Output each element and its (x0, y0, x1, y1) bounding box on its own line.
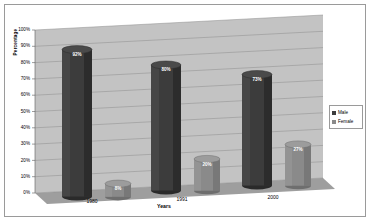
ytick-0: 0% (5, 190, 30, 195)
y-axis-title: Percentage (13, 7, 19, 77)
value-label-1991-male: 80% (151, 67, 181, 72)
ytick-30: 30% (5, 141, 30, 146)
legend-swatch-male (332, 111, 336, 115)
bar-2000-male[interactable] (242, 71, 272, 190)
ytick-40: 40% (5, 125, 30, 130)
value-label-1980-female: 8% (105, 186, 131, 191)
x-axis-title: Years (5, 203, 323, 209)
value-label-1991-female: 20% (194, 162, 220, 167)
ytick-60: 60% (5, 92, 30, 97)
bar-chart-3d (5, 5, 367, 218)
legend-label-male: Male (338, 110, 348, 115)
chart-legend: Male Female (329, 105, 363, 129)
ytick-50: 50% (5, 109, 30, 114)
bar-1991-male[interactable] (151, 61, 181, 195)
legend-item-male[interactable]: Male (332, 108, 360, 117)
value-label-2000-female: 27% (285, 147, 311, 152)
y-axis (32, 30, 35, 193)
xtick-1991: 1991 (157, 196, 207, 202)
value-label-2000-male: 73% (242, 77, 272, 82)
ytick-20: 20% (5, 158, 30, 163)
legend-label-female: Female (338, 119, 353, 124)
xtick-2000: 2000 (248, 194, 298, 200)
chart-frame: 100% 90% 80% 70% 60% 50% 40% 30% 20% 10%… (4, 4, 366, 217)
value-label-1980-male: 92% (62, 52, 92, 57)
legend-item-female[interactable]: Female (332, 117, 360, 126)
bar-1980-male[interactable] (62, 46, 92, 201)
ytick-10: 10% (5, 174, 30, 179)
legend-swatch-female (332, 120, 336, 124)
